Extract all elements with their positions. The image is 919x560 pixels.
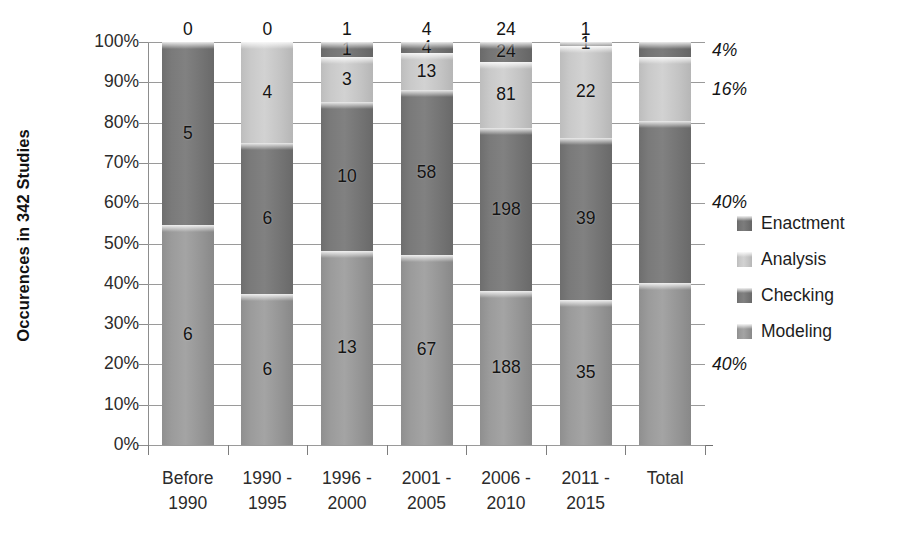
y-tick-mark-30 [139,324,148,325]
segment-value-label: 6 [262,210,272,228]
legend-swatch-modeling [737,324,752,339]
y-tick-label: 40% [104,273,139,294]
x-axis-label-line: 1990 [162,491,214,516]
y-axis-title-text: Occurences in 342 Studies [14,129,33,342]
segment-value-label: 4 [422,39,432,57]
x-axis-label-line: Before [162,466,214,491]
bar-segment-enactment[interactable]: 1 [560,42,612,46]
bar-top-label: 0 [183,19,193,40]
total-percent-label-analysis: 16% [712,79,747,100]
bar-top-label: 0 [262,19,272,40]
bar-top-label: 4 [422,19,432,40]
y-tick-mark-100 [139,42,148,43]
bar-segment-checking[interactable]: 6 [241,143,293,294]
bar-segment-analysis[interactable]: 13 [401,53,453,90]
bar-top-label: 1 [342,19,352,40]
bar-2006-2010[interactable]: 188198812424 [480,42,532,445]
bar-segment-modeling[interactable]: 67 [401,255,453,445]
legend-label: Checking [761,285,834,306]
segment-value-label: 39 [576,210,595,228]
bar-segment-modeling[interactable]: 35 [560,300,612,445]
x-axis-label: 1990 -1995 [243,466,293,517]
bar-segment-checking[interactable] [639,121,691,283]
plot-area: 100%90%80%70%60%50%40%30%20%10%0% 650664… [148,42,705,445]
x-axis-label: 1996 -2000 [322,466,372,517]
segment-value-label: 188 [491,359,520,377]
bar-segment-checking[interactable]: 5 [162,42,214,225]
total-percent-label-modeling: 40% [712,354,747,375]
bar-segment-modeling[interactable]: 6 [241,294,293,445]
bar-1996-2000[interactable]: 1310311 [321,42,373,445]
chart-legend: EnactmentAnalysisCheckingModeling [737,205,912,349]
x-axis-label-line: 1990 - [243,466,293,491]
x-axis-label-line: 2010 [481,491,531,516]
bar-2001-2005[interactable]: 67581344 [401,42,453,445]
bar-total[interactable] [639,42,691,445]
y-tick-mark-80 [139,123,148,124]
segment-value-label: 35 [576,364,595,382]
legend-item-checking[interactable]: Checking [737,277,912,313]
y-tick-label: 10% [104,394,139,415]
legend-label: Modeling [761,321,832,342]
x-axis-label-line: 1996 - [322,466,372,491]
x-axis-label-line: 2000 [322,491,372,516]
y-tick-label: 30% [104,313,139,334]
bar-segment-modeling[interactable] [639,283,691,445]
x-tick-mark [625,445,626,455]
bar-1990-1995[interactable]: 6640 [241,42,293,445]
bar-segment-modeling[interactable]: 13 [321,251,373,445]
segment-value-label: 81 [496,86,515,104]
y-tick-mark-60 [139,203,148,204]
bar-segment-enactment[interactable]: 1 [321,42,373,57]
x-axis-label-line: 2005 [402,491,452,516]
x-axis-labels: Before19901990 -19951996 -20002001 -2005… [148,466,705,546]
chart-root: Occurences in 342 Studies 100%90%80%70%6… [0,0,919,560]
y-tick-mark-0 [139,445,148,446]
bar-segment-checking[interactable]: 39 [560,138,612,300]
legend-item-modeling[interactable]: Modeling [737,313,912,349]
bar-before-1990[interactable]: 650 [162,42,214,445]
bar-segment-enactment[interactable] [639,42,691,57]
bar-segment-analysis[interactable] [639,57,691,120]
bar-segment-modeling[interactable]: 188 [480,291,532,445]
bar-segment-analysis[interactable]: 81 [480,62,532,128]
x-axis-label: Before1990 [162,466,214,517]
total-percent-label-enactment: 4% [712,39,737,60]
bar-2011-2015[interactable]: 35392211 [560,42,612,445]
y-tick-mark-50 [139,244,148,245]
y-tick-mark-70 [139,163,148,164]
x-tick-mark [228,445,229,455]
bar-segment-enactment[interactable]: 4 [401,42,453,53]
y-tick-label: 70% [104,152,139,173]
y-axis-title: Occurences in 342 Studies [6,0,40,470]
legend-label: Enactment [761,213,845,234]
legend-swatch-checking [737,288,752,303]
y-tick-label: 60% [104,192,139,213]
legend-item-analysis[interactable]: Analysis [737,241,912,277]
segment-value-label: 1 [342,41,352,59]
x-tick-mark [148,445,149,455]
legend-label: Analysis [761,249,826,270]
x-axis-label: 2006 -2010 [481,466,531,517]
y-tick-label: 80% [104,112,139,133]
gridline-0 [148,445,705,446]
legend-swatch-analysis [737,252,752,267]
x-axis-label: 2011 -2015 [561,466,609,517]
bar-segment-modeling[interactable]: 6 [162,225,214,445]
x-tick-mark [546,445,547,455]
bar-segment-enactment[interactable]: 24 [480,42,532,62]
segment-value-label: 4 [262,84,272,102]
segment-value-label: 13 [337,339,356,357]
x-tick-mark [466,445,467,455]
bar-segment-checking[interactable]: 198 [480,128,532,291]
legend-item-enactment[interactable]: Enactment [737,205,912,241]
bar-segment-analysis[interactable]: 22 [560,46,612,137]
bar-segment-checking[interactable]: 58 [401,90,453,255]
segment-value-label: 24 [496,43,515,61]
x-tick-mark [387,445,388,455]
bar-segment-analysis[interactable]: 3 [321,57,373,102]
segment-value-label: 10 [337,168,356,186]
bar-segment-checking[interactable]: 10 [321,102,373,251]
x-tick-mark [307,445,308,455]
bar-segment-analysis[interactable]: 4 [241,42,293,143]
